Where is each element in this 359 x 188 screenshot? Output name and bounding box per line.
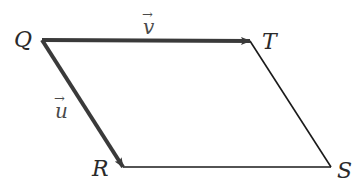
vertex-label-r: R	[91, 156, 109, 181]
vertex-label-q: Q	[14, 27, 32, 52]
vector-arrow-symbol-v: →	[142, 7, 153, 22]
vertex-label-s: S	[337, 158, 352, 183]
vector-v-arrow	[42, 40, 250, 41]
edge-ts	[250, 41, 331, 167]
parallelogram-diagram: Q T R S v → u →	[0, 0, 359, 188]
vertex-label-t: T	[262, 29, 279, 54]
vector-arrow-symbol-u: →	[54, 91, 65, 106]
